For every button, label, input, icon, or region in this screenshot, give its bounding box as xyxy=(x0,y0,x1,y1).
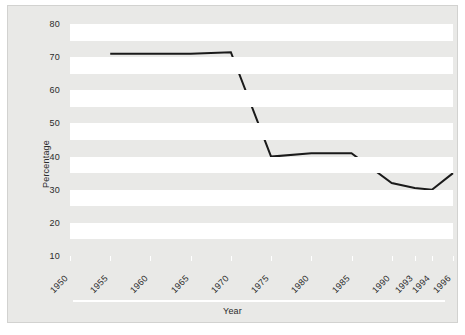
y-axis-tick-label: 20 xyxy=(50,218,60,228)
x-axis-tick-mark xyxy=(110,256,111,261)
x-axis-tick-mark xyxy=(432,256,433,261)
x-axis-tick-label: 1980 xyxy=(289,273,311,295)
x-axis-tick-mark xyxy=(271,256,272,261)
x-axis-rule xyxy=(73,300,445,302)
plot-band xyxy=(70,57,453,74)
x-axis-tick-label: 1955 xyxy=(88,273,110,295)
x-axis-tick-mark xyxy=(352,256,353,261)
x-axis-tick-label: 1994 xyxy=(410,273,432,295)
y-axis-tick-label: 30 xyxy=(50,185,60,195)
y-axis-tick-label: 70 xyxy=(50,52,60,62)
x-axis-tick-mark xyxy=(311,256,312,261)
chart-card: Percentage 1020304050607080 195019551960… xyxy=(7,5,458,323)
x-axis-tick-mark xyxy=(191,256,192,261)
x-axis-tick-label: 1993 xyxy=(393,273,415,295)
x-axis-tick-mark xyxy=(70,256,71,261)
plot-band xyxy=(70,24,453,41)
y-axis-tick-label: 50 xyxy=(50,118,60,128)
y-axis-tick-label: 40 xyxy=(50,152,60,162)
plot-band xyxy=(70,90,453,107)
plot-band xyxy=(70,190,453,207)
y-axis-tick-labels: 1020304050607080 xyxy=(8,24,66,256)
plot-band xyxy=(70,123,453,140)
plot-band xyxy=(70,157,453,174)
x-axis-title: Year xyxy=(8,306,457,316)
y-axis-tick-label: 80 xyxy=(50,19,60,29)
x-axis-tick-label: 1970 xyxy=(209,273,231,295)
x-axis-tick-label: 1975 xyxy=(249,273,271,295)
x-axis-tick-labels: 1950195519601965197019751980198519901993… xyxy=(70,262,453,304)
y-axis-tick-label: 10 xyxy=(50,251,60,261)
x-axis-tick-mark xyxy=(453,256,454,261)
chart-figure: Percentage 1020304050607080 195019551960… xyxy=(0,0,465,335)
x-axis-tick-label: 1960 xyxy=(128,273,150,295)
plot-band xyxy=(70,223,453,240)
x-axis-tick-label: 1985 xyxy=(330,273,352,295)
x-axis-tick-label: 1950 xyxy=(48,273,70,295)
x-axis-tick-label: 1996 xyxy=(431,273,453,295)
x-axis-tick-label: 1990 xyxy=(370,273,392,295)
x-axis-tick-label: 1965 xyxy=(169,273,191,295)
y-axis-tick-label: 60 xyxy=(50,85,60,95)
x-axis-tick-mark xyxy=(231,256,232,261)
x-axis-tick-mark xyxy=(392,256,393,261)
x-axis-tick-mark xyxy=(415,256,416,261)
x-axis-tick-mark xyxy=(150,256,151,261)
plot-area xyxy=(70,24,453,256)
